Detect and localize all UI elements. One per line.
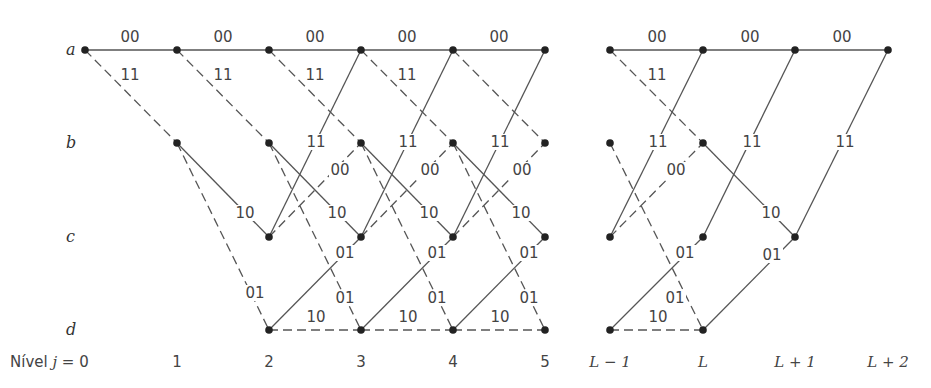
trellis-node-c [791,233,799,241]
trellis-node-a [173,46,181,54]
trellis-edge-a-b [177,50,269,143]
edge-label: 10 [327,204,346,222]
trellis-node-b [541,139,549,147]
trellis-edge-b-d [610,143,703,330]
trellis-node-c [606,233,614,241]
edge-label: 01 [427,244,446,262]
edge-label: 01 [335,289,354,307]
trellis-node-d [357,326,365,334]
edge-label: 00 [420,161,439,179]
edge-label: 01 [675,244,694,262]
level-label-2: 2 [264,353,274,371]
level-label-8: L + 1 [773,353,816,371]
edge-label: 01 [519,289,538,307]
edge-label: 00 [666,161,685,179]
edge-label: 01 [427,289,446,307]
trellis-node-b [699,139,707,147]
trellis-node-c [699,233,707,241]
trellis-node-a [606,46,614,54]
trellis-node-a [357,46,365,54]
trellis-edge-a-b [85,50,177,143]
trellis-edge-c-b [610,143,703,237]
edge-label: 10 [648,308,667,326]
trellis-nodes [81,46,892,334]
trellis-edge-b-c [703,143,795,237]
trellis-node-c [265,233,273,241]
state-label-a: a [66,40,76,59]
edge-label: 00 [740,28,759,46]
trellis-node-a [791,46,799,54]
edge-label: 11 [213,66,232,84]
edge-label: 00 [330,161,349,179]
state-label-c: c [66,227,75,246]
trellis-node-a [541,46,549,54]
level-labels: Nível j = 0 12345L − 1LL + 1L + 2 [10,353,909,371]
trellis-node-d [606,326,614,334]
edge-label: 10 [235,204,254,222]
edge-label: 10 [398,308,417,326]
trellis-node-a [699,46,707,54]
edge-label: 11 [305,66,324,84]
trellis-node-b [173,139,181,147]
edge-label: 00 [832,28,851,46]
edge-output-labels: 0011001110010011100111000110001110011100… [119,28,856,326]
edge-label: 10 [490,308,509,326]
state-label-b: b [66,133,76,152]
level-label-4: 4 [448,353,458,371]
edge-label: 01 [245,284,264,302]
level-label-0: Nível j = 0 [10,353,89,371]
trellis-edge-a-b [269,50,361,143]
trellis-edge-b-c [177,143,269,237]
trellis-edge-a-b [361,50,453,143]
edge-label: 11 [835,133,854,151]
level-label-6: L − 1 [588,353,631,371]
edge-label: 11 [397,66,416,84]
edge-label: 00 [305,28,324,46]
edge-label: 00 [512,161,531,179]
level-prefix: Nível [10,353,52,371]
trellis-node-b [265,139,273,147]
edge-label: 01 [335,244,354,262]
state-label-d: d [66,320,76,339]
trellis-node-c [541,233,549,241]
level-label-1: 1 [172,353,182,371]
trellis-node-b [449,139,457,147]
edge-label: 01 [762,246,781,264]
level-zero: = 0 [57,353,89,371]
trellis-edge-a-b [610,50,703,143]
edge-label: 10 [306,308,325,326]
level-label-7: L [697,353,708,371]
edge-label: 11 [398,133,417,151]
edge-label: 00 [213,28,232,46]
state-labels: a b c d [66,40,76,339]
trellis-node-d [265,326,273,334]
trellis-edge-a-b [453,50,545,143]
trellis-node-c [449,233,457,241]
edge-label: 00 [489,28,508,46]
edge-label: 01 [665,289,684,307]
level-label-3: 3 [356,353,366,371]
trellis-edges [85,50,888,330]
edge-label: 11 [306,133,325,151]
edge-label: 10 [511,204,530,222]
edge-label: 11 [647,66,666,84]
edge-label: 11 [742,133,761,151]
trellis-node-a [884,46,892,54]
edge-label: 00 [647,28,666,46]
trellis-node-a [81,46,89,54]
edge-label: 00 [120,28,139,46]
edge-label: 00 [397,28,416,46]
trellis-node-c [357,233,365,241]
trellis-diagram: 0011001110010011100111000110001110011100… [0,0,931,388]
trellis-node-a [265,46,273,54]
trellis-node-b [606,139,614,147]
edge-label: 10 [419,204,438,222]
level-label-5: 5 [540,353,550,371]
trellis-node-a [449,46,457,54]
edge-label: 11 [490,133,509,151]
edge-label: 11 [648,133,667,151]
edge-label: 10 [761,204,780,222]
trellis-node-d [541,326,549,334]
trellis-node-d [699,326,707,334]
edge-label: 01 [519,244,538,262]
